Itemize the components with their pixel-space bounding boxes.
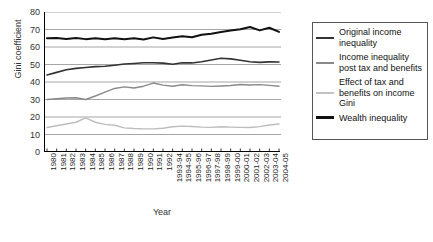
legend-line-swatch <box>316 92 334 94</box>
x-tick-1991: 1991 <box>155 153 164 171</box>
x-tick-1981: 1981 <box>59 153 68 171</box>
x-tick-1980: 1980 <box>49 153 58 171</box>
legend-item[interactable]: Original income inequality <box>316 27 424 48</box>
y-tick-60: 60 <box>30 42 40 52</box>
legend-item-label: Effect of tax and benefits on income Gin… <box>339 77 424 109</box>
y-tick-30: 30 <box>30 95 40 105</box>
y-tick-20: 20 <box>30 112 40 122</box>
x-tick-1995-96: 1995-96 <box>194 153 203 182</box>
legend-line-swatch <box>316 62 334 64</box>
y-axis-tick-labels: 01020304050607080 <box>18 12 40 152</box>
x-tick-1982: 1982 <box>68 153 77 171</box>
legend-item-label: Income inequality post tax and benefits <box>339 52 424 73</box>
y-tick-80: 80 <box>30 7 40 17</box>
x-axis-title: Year <box>44 207 280 217</box>
x-tick-1989: 1989 <box>136 153 145 171</box>
legend-item[interactable]: Wealth inequality <box>316 113 424 124</box>
series-line <box>47 27 279 39</box>
series-line <box>47 83 279 99</box>
y-tick-0: 0 <box>35 147 40 157</box>
legend-item[interactable]: Income inequality post tax and benefits <box>316 52 424 73</box>
x-tick-2002-03: 2002-03 <box>262 153 271 182</box>
x-tick-1998-99: 1998-99 <box>223 153 232 182</box>
x-tick-1993-94: 1993-94 <box>175 153 184 182</box>
y-tick-40: 40 <box>30 77 40 87</box>
x-tick-1988: 1988 <box>126 153 135 171</box>
x-tick-2000-01: 2000-01 <box>242 153 251 182</box>
x-tick-1986: 1986 <box>107 153 116 171</box>
series-line <box>47 118 279 129</box>
chart-legend: Original income inequalityIncome inequal… <box>312 22 428 140</box>
plot-area <box>44 12 280 152</box>
x-tick-1994-95: 1994-95 <box>184 153 193 182</box>
x-tick-2001-02: 2001-02 <box>252 153 261 182</box>
legend-line-swatch <box>316 116 334 119</box>
x-tick-1987: 1987 <box>117 153 126 171</box>
x-tick-1999-00: 1999-00 <box>233 153 242 182</box>
x-tick-1984: 1984 <box>88 153 97 171</box>
y-tick-10: 10 <box>30 130 40 140</box>
x-tick-2003-04: 2003-04 <box>271 153 280 182</box>
x-tick-1992: 1992 <box>165 153 174 171</box>
chart-figure: Gini coefficient 01020304050607080 19801… <box>0 0 433 242</box>
x-tick-1983: 1983 <box>78 153 87 171</box>
x-tick-1990: 1990 <box>146 153 155 171</box>
x-axis-tick-labels: 1980198119821983198419851986198719881989… <box>44 153 280 203</box>
y-tick-50: 50 <box>30 60 40 70</box>
legend-item-label: Wealth inequality <box>339 113 407 124</box>
x-tick-1996-97: 1996-97 <box>204 153 213 182</box>
legend-item-label: Original income inequality <box>339 27 424 48</box>
x-tick-1985: 1985 <box>97 153 106 171</box>
x-tick-2004-05: 2004-05 <box>281 153 290 182</box>
series-canvas <box>45 12 281 152</box>
series-line <box>47 58 279 75</box>
x-tick-1997-98: 1997-98 <box>213 153 222 182</box>
legend-item[interactable]: Effect of tax and benefits on income Gin… <box>316 77 424 109</box>
y-tick-70: 70 <box>30 25 40 35</box>
legend-line-swatch <box>316 37 334 39</box>
